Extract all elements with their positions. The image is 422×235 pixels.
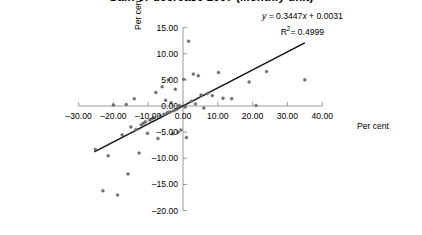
- scatter-chart: Gain or decrease 2007 (Monthly unit) y =…: [0, 0, 422, 235]
- data-point: [190, 100, 193, 103]
- y-tick-label: 0.00: [161, 101, 178, 111]
- y-tick-label: 15.00: [156, 23, 178, 33]
- y-tick-label: –5.00: [156, 127, 178, 137]
- data-point: [125, 103, 128, 106]
- data-point: [217, 71, 220, 74]
- data-point: [116, 193, 119, 196]
- data-point: [127, 172, 130, 175]
- y-tick-label: 5.00: [161, 75, 178, 85]
- data-point: [165, 111, 168, 114]
- data-point: [211, 94, 214, 97]
- data-point: [200, 94, 203, 97]
- data-point: [129, 125, 132, 128]
- data-point: [230, 97, 233, 100]
- data-point: [112, 103, 115, 106]
- data-point: [182, 78, 185, 81]
- x-tick-label: 0.00: [175, 111, 192, 121]
- data-point: [135, 128, 138, 131]
- x-tick-label: –10.00: [135, 111, 161, 121]
- data-point: [187, 40, 190, 43]
- x-tick-label: –30.00: [65, 111, 91, 121]
- trend-line: [94, 43, 305, 152]
- data-point: [255, 104, 258, 107]
- y-tick-label: –20.00: [152, 206, 178, 216]
- data-point: [248, 80, 251, 83]
- data-point: [156, 137, 159, 140]
- data-point: [192, 73, 195, 76]
- data-point: [222, 97, 225, 100]
- data-point: [265, 70, 268, 73]
- data-point: [194, 102, 197, 105]
- x-tick-label: 20.00: [242, 111, 264, 121]
- data-point: [146, 132, 149, 135]
- data-point: [107, 154, 110, 157]
- y-tick-label: 10.00: [156, 49, 178, 59]
- x-tick-label: 40.00: [311, 111, 333, 121]
- data-point: [161, 85, 164, 88]
- data-point: [184, 106, 187, 109]
- x-tick-label: 30.00: [277, 111, 299, 121]
- data-point: [94, 148, 97, 151]
- data-point: [178, 104, 181, 107]
- data-point: [154, 91, 157, 94]
- x-tick-label: 10.00: [207, 111, 229, 121]
- data-point: [202, 107, 205, 110]
- data-point: [101, 189, 104, 192]
- data-point: [174, 88, 177, 91]
- data-point: [138, 152, 141, 155]
- data-point: [121, 133, 124, 136]
- data-point: [206, 92, 209, 95]
- data-point: [197, 74, 200, 77]
- x-tick-label: –20.00: [100, 111, 126, 121]
- data-point: [179, 129, 182, 132]
- y-tick-label: –10.00: [152, 153, 178, 163]
- y-tick-label: –15.00: [152, 179, 178, 189]
- data-point: [162, 113, 165, 116]
- data-point: [133, 97, 136, 100]
- data-point: [303, 78, 306, 81]
- data-point: [185, 136, 188, 139]
